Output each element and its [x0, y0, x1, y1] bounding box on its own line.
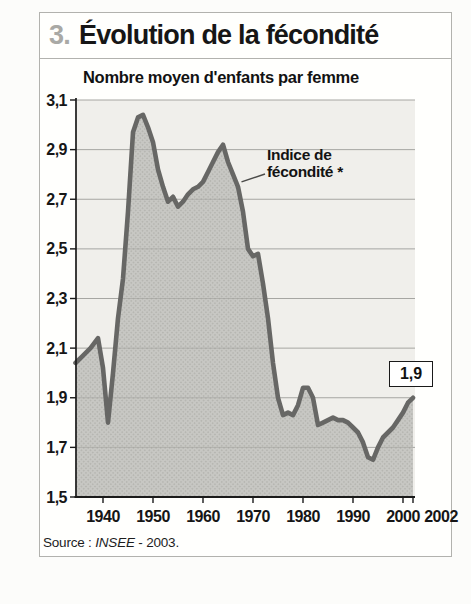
- x-tick-label: 1970: [236, 508, 270, 525]
- source-line: Source : INSEE - 2003.: [43, 535, 179, 550]
- end-value-badge: 1,9: [389, 361, 433, 387]
- x-tick-label: 1980: [286, 508, 320, 525]
- x-tick-label: 2000: [386, 508, 420, 525]
- chart-subtitle: Nombre moyen d'enfants par femme: [83, 68, 359, 87]
- source-prefix: Source :: [43, 535, 95, 550]
- source-suffix: - 2003.: [135, 535, 179, 550]
- series-annotation-line2: fécondité *: [267, 164, 343, 181]
- fertility-area-chart: 3,12,92,72,52,32,11,91,71,51940195019601…: [0, 0, 471, 604]
- y-tick-label: 2,3: [46, 290, 67, 307]
- y-tick-label: 1,9: [46, 389, 67, 406]
- y-tick-label: 2,9: [46, 141, 67, 158]
- y-tick-label: 1,5: [46, 489, 67, 506]
- end-value-text: 1,9: [400, 365, 422, 383]
- plot-layer: 3,12,92,72,52,32,11,91,71,51940195019601…: [46, 92, 458, 526]
- x-tick-label: 2002: [424, 508, 458, 525]
- y-tick-label: 3,1: [46, 92, 67, 109]
- series-annotation-line1: Indice de: [267, 147, 343, 164]
- source-name: INSEE: [95, 535, 135, 550]
- series-annotation: Indice de fécondité *: [267, 147, 343, 180]
- figure-page: 3. Évolution de la fécondité 3,12,92,72,…: [0, 0, 471, 604]
- y-tick-label: 2,7: [46, 191, 67, 208]
- x-tick-label: 1960: [186, 508, 220, 525]
- y-tick-label: 1,7: [46, 439, 67, 456]
- y-tick-label: 2,1: [46, 340, 67, 357]
- x-tick-label: 1950: [136, 508, 170, 525]
- x-tick-label: 1940: [86, 508, 120, 525]
- x-tick-label: 1990: [336, 508, 370, 525]
- y-tick-label: 2,5: [46, 240, 67, 257]
